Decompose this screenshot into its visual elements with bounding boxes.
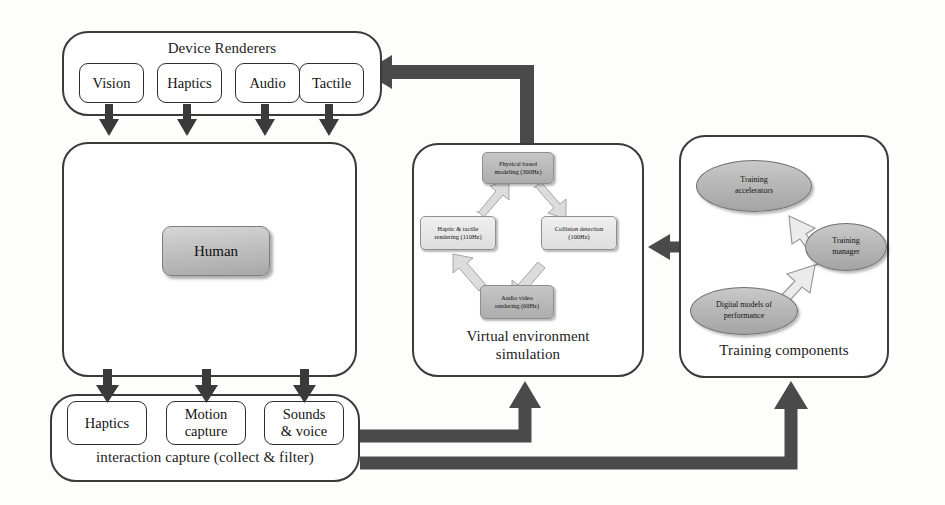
renderer-haptics[interactable]: Haptics [157,63,222,103]
capture-haptics[interactable]: Haptics [67,401,147,445]
ve-node-0-line2: modeling (300Hz) [494,168,541,175]
capture-motion-line2: capture [185,423,228,439]
capture-motion-line1: Motion [185,406,228,422]
virtual-environment-label-line1: Virtual environment [466,328,589,344]
ve-node-audio-video-rendering-label: Audio video rendering (60Hz) [495,294,539,311]
ve-node-collision-detection[interactable]: Collision detection (100Hz) [541,216,617,250]
human-label: Human [194,243,238,260]
training-node-1-line1: Training [832,236,859,245]
capture-sounds-line1: Sounds [283,406,326,422]
ve-node-physical-modeling[interactable]: Physical based modeling (300Hz) [482,152,554,184]
arrow-ve-to-renderers-shaft [385,72,527,150]
ve-node-2-line1: Audio video [501,294,533,301]
ve-node-1-line2: (100Hz) [568,233,589,240]
arrow-capture-to-ve-shaft [360,402,525,436]
training-node-0-line2: accelerators [735,186,773,195]
capture-haptics-label: Haptics [85,415,129,432]
ve-node-haptic-tactile-rendering-label: Haptic & tactile rendering (110Hz) [434,225,481,242]
training-components-label: Training components [681,342,887,360]
renderer-audio-label: Audio [249,75,285,92]
ve-node-audio-video-rendering[interactable]: Audio video rendering (60Hz) [480,285,554,319]
ve-node-1-line1: Collision detection [555,225,603,232]
training-node-2-line1: Digital models of [716,300,772,309]
training-ellipse-accelerators-label: Training accelerators [735,175,773,197]
capture-motion-label: Motion capture [185,406,228,439]
renderer-vision[interactable]: Vision [79,63,144,103]
training-ellipse-manager-label: Training manager [832,236,860,258]
arrow-capture-to-training-shaft [360,404,791,463]
ve-node-0-line1: Physical based [499,160,537,167]
training-ellipse-digital-models-label: Digital models of performance [716,300,772,322]
renderer-tactile[interactable]: Tactile [299,63,364,103]
capture-sounds[interactable]: Sounds & voice [264,401,344,445]
ve-node-collision-detection-label: Collision detection (100Hz) [555,225,603,242]
capture-motion[interactable]: Motion capture [166,401,246,445]
arrow-capture-to-ve-head [509,381,541,408]
training-ellipse-digital-models[interactable]: Digital models of performance [690,287,798,335]
ve-node-2-line2: rendering (60Hz) [495,302,539,309]
capture-sounds-line2: & voice [281,423,327,439]
renderer-tactile-label: Tactile [312,75,351,92]
training-node-0-line1: Training [740,175,767,184]
training-ellipse-accelerators[interactable]: Training accelerators [696,160,812,212]
ve-node-3-line1: Haptic & tactile [438,225,479,232]
device-renderers-label: Device Renderers [64,40,380,58]
virtual-environment-label: Virtual environment simulation [414,328,642,363]
virtual-environment-label-line2: simulation [496,346,560,362]
ve-node-haptic-tactile-rendering[interactable]: Haptic & tactile rendering (110Hz) [420,216,496,250]
arrow-capture-to-training-head [774,381,808,409]
interaction-capture-label: interaction capture (collect & filter) [52,449,358,467]
training-node-2-line2: performance [724,311,764,320]
renderer-haptics-label: Haptics [167,75,211,92]
ve-node-physical-modeling-label: Physical based modeling (300Hz) [494,160,541,177]
renderer-vision-label: Vision [93,75,131,92]
diagram-canvas: Device Renderers Vision Haptics Audio Ta… [0,0,945,505]
training-node-1-line2: manager [832,247,860,256]
arrow-training-to-ve-head [648,234,670,260]
renderer-audio[interactable]: Audio [235,63,300,103]
ve-node-3-line2: rendering (110Hz) [434,233,481,240]
training-ellipse-manager[interactable]: Training manager [805,223,887,271]
capture-sounds-label: Sounds & voice [281,406,327,439]
human-block[interactable]: Human [162,226,270,276]
